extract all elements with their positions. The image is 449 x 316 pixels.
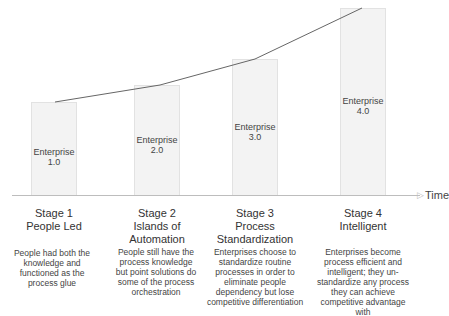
stage-name: Islands of	[109, 220, 205, 233]
stage-name: Intelligent	[315, 220, 411, 233]
stage-4-title: Stage 4 Intelligent	[315, 207, 411, 233]
stage-4-description: Enterprises become process efficient and…	[313, 247, 413, 316]
stage-3-description: Enterprises choose to standardize routin…	[205, 247, 305, 307]
stage-1-description: People had both the knowledge and functi…	[6, 248, 98, 288]
stage-name-cont: Standardization	[207, 233, 303, 246]
axis-label: Time	[425, 189, 449, 201]
stage-3-title: Stage 3 Process Standardization	[207, 207, 303, 246]
stage-1-title: Stage 1 People Led	[6, 207, 102, 233]
stage-name-cont: Automation	[109, 233, 205, 246]
stage-number: Stage 3	[207, 207, 303, 220]
time-axis	[12, 195, 420, 196]
stage-name: People Led	[6, 220, 102, 233]
stage-2-title: Stage 2 Islands of Automation	[109, 207, 205, 246]
stage-number: Stage 4	[315, 207, 411, 220]
stage-number: Stage 2	[109, 207, 205, 220]
stage-number: Stage 1	[6, 207, 102, 220]
stage-name: Process	[207, 220, 303, 233]
stage-2-description: People still have the process knowledge …	[113, 247, 199, 297]
arrow-right-icon: ▷	[417, 191, 424, 200]
